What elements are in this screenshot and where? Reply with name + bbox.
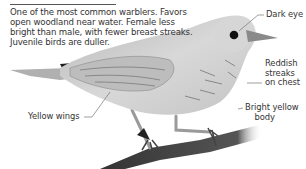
- label-yellow-wings: Yellow wings: [28, 112, 79, 122]
- label-bright-yellow-body: Bright yellow body: [245, 103, 299, 122]
- species-description: One of the most common warblers. Favors …: [10, 7, 200, 47]
- label-dark-eye: Dark eye: [266, 10, 303, 20]
- label-reddish-streaks: Reddish streaks on chest: [265, 59, 300, 88]
- label-line: body: [245, 113, 299, 123]
- label-line: on chest: [265, 78, 300, 88]
- beak: [246, 30, 278, 42]
- eye: [230, 31, 239, 40]
